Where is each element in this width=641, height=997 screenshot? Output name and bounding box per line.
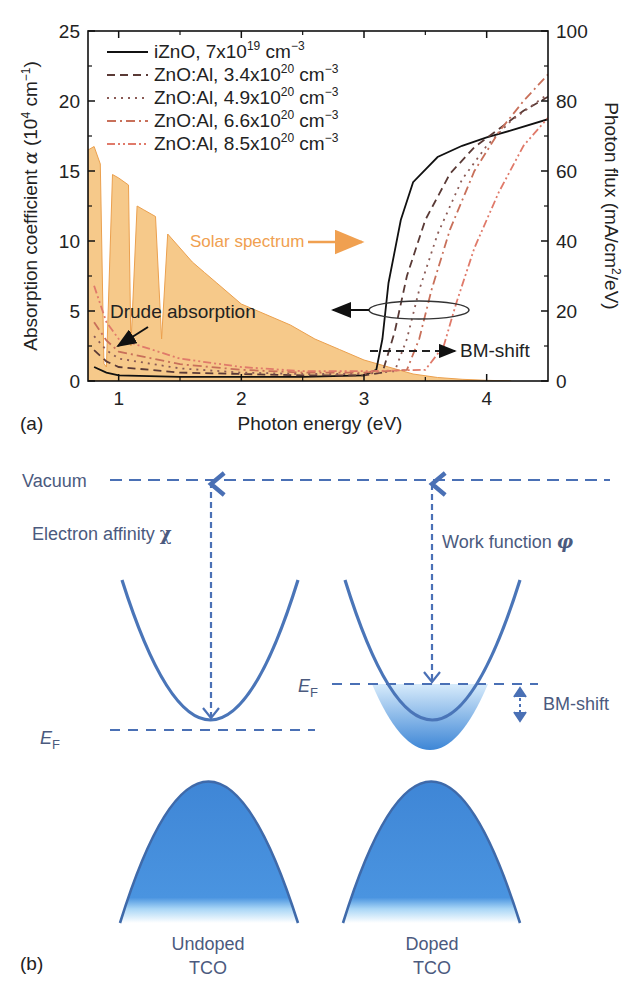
legend-entry: ZnO:Al, 3.4x1020 cm−3 [154, 62, 339, 85]
legend-entry: ZnO:Al, 4.9x1020 cm−3 [154, 85, 339, 108]
panel-label-b: (b) [20, 953, 43, 974]
y-left-tick-label: 10 [59, 231, 80, 252]
work-function-label: Work function φ [442, 531, 574, 552]
y-left-tick-label: 0 [69, 371, 80, 392]
vacuum-label: Vacuum [22, 471, 87, 491]
bm-shift-label: BM-shift [543, 694, 609, 714]
legend-entry: ZnO:Al, 8.5x1020 cm−3 [154, 131, 339, 154]
y-right-tick-label: 80 [556, 91, 577, 112]
drude-annotation: Drude absorption [110, 301, 256, 322]
x-axis-label: Photon energy (eV) [238, 413, 403, 434]
y-right-tick-label: 100 [556, 21, 588, 42]
x-tick-label: 2 [236, 388, 247, 409]
electron-affinity-label: Electron affinity χ [32, 523, 172, 544]
y-left-tick-label: 15 [59, 161, 80, 182]
undoped-label-line2: TCO [189, 958, 227, 978]
y-left-tick-label: 20 [59, 91, 80, 112]
y-right-tick-label: 60 [556, 161, 577, 182]
x-tick-label: 3 [359, 388, 370, 409]
y-right-tick-label: 40 [556, 231, 577, 252]
legend-entry: iZnO, 7x1019 cm−3 [154, 39, 305, 62]
y-left-tick-label: 25 [59, 21, 80, 42]
chart-panel-a: 1234 0510152025 020406080100 Photon ener… [19, 21, 623, 434]
solar-spectrum-annotation: Solar spectrum [190, 232, 304, 251]
undoped-label-line1: Undoped [171, 934, 244, 954]
panel-label-a: (a) [20, 413, 43, 434]
undoped-conduction-band [122, 580, 298, 720]
y-left-label-text: Absorption coefficient [20, 164, 41, 351]
y-axis-right-label: Photon flux (mA/cm2/eV) [601, 102, 623, 309]
solar-spectrum-path [88, 147, 511, 382]
y-axis-left-label: Absorption coefficient α (104 cm−1) [19, 61, 41, 351]
y-left-tick-label: 5 [69, 301, 80, 322]
solar-spectrum-area [88, 147, 511, 382]
doped-fermi-label: EF [298, 676, 318, 700]
figure: 1234 0510152025 020406080100 Photon ener… [0, 0, 641, 997]
x-tick-label: 1 [113, 388, 124, 409]
undoped-fermi-label: EF [40, 728, 60, 752]
doped-label-line2: TCO [413, 958, 451, 978]
band-diagram-panel-b: Vacuum Electron affinity χ EF Work funct… [20, 471, 610, 978]
doped-label-line1: Doped [405, 934, 458, 954]
y-right-tick-label: 20 [556, 301, 577, 322]
legend: iZnO, 7x1019 cm−3ZnO:Al, 3.4x1020 cm−3Zn… [107, 39, 339, 154]
y-right-tick-label: 0 [556, 371, 567, 392]
bm-shift-annotation: BM-shift [460, 340, 530, 361]
legend-entry: ZnO:Al, 6.6x1020 cm−3 [154, 108, 339, 131]
x-tick-label: 4 [481, 388, 492, 409]
